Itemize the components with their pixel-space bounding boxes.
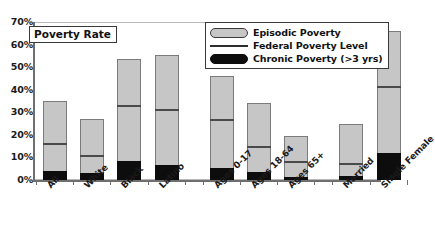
legend-item-chronic: Chronic Poverty (>3 yrs) bbox=[210, 52, 382, 65]
x-axis-tick-mark bbox=[36, 180, 37, 185]
x-axis-tick-mark bbox=[185, 180, 186, 185]
legend-item-label: Federal Poverty Level bbox=[253, 40, 368, 52]
legend-item-episodic: Episodic Poverty bbox=[210, 26, 382, 39]
y-axis-tick-mark bbox=[29, 90, 34, 91]
chart-legend: Episodic Poverty Federal Poverty Level C… bbox=[205, 22, 389, 69]
horizontal-line-swatch-icon bbox=[210, 41, 248, 51]
bar-group bbox=[155, 22, 179, 180]
y-axis-title: Poverty Rate bbox=[29, 26, 117, 43]
federal-poverty-level-marker bbox=[117, 105, 141, 107]
x-axis-tick-mark bbox=[370, 180, 371, 185]
y-axis-tick-mark bbox=[29, 135, 34, 136]
federal-poverty-level-marker bbox=[155, 109, 179, 111]
x-axis-tick-mark bbox=[314, 180, 315, 185]
federal-poverty-level-marker bbox=[80, 155, 104, 157]
y-axis-tick-mark bbox=[29, 157, 34, 158]
legend-item-label: Episodic Poverty bbox=[253, 27, 341, 39]
bar-group bbox=[80, 22, 104, 180]
y-axis-tick-mark bbox=[29, 22, 34, 23]
federal-poverty-level-marker bbox=[210, 119, 234, 121]
x-axis-tick-mark bbox=[203, 180, 204, 185]
y-axis-tick-mark bbox=[29, 112, 34, 113]
federal-poverty-level-marker bbox=[43, 143, 67, 145]
y-axis-tick-mark bbox=[29, 67, 34, 68]
x-axis-tick-mark bbox=[240, 180, 241, 185]
federal-poverty-level-marker bbox=[247, 146, 271, 148]
y-axis-tick-mark bbox=[29, 45, 34, 46]
x-axis-tick-mark bbox=[277, 180, 278, 185]
x-axis-tick-mark bbox=[73, 180, 74, 185]
bar-segment-episodic bbox=[155, 55, 179, 180]
x-axis-tick-mark bbox=[148, 180, 149, 185]
x-axis-tick-mark bbox=[110, 180, 111, 185]
x-axis-tick-mark bbox=[407, 180, 408, 185]
federal-poverty-level-marker bbox=[377, 86, 401, 88]
legend-item-federal-poverty-level: Federal Poverty Level bbox=[210, 39, 382, 52]
bar-segment-episodic bbox=[43, 101, 67, 180]
bar-group bbox=[117, 22, 141, 180]
y-axis-tick-mark bbox=[29, 180, 34, 181]
bar-group bbox=[43, 22, 67, 180]
legend-item-label: Chronic Poverty (>3 yrs) bbox=[253, 53, 382, 65]
rounded-gray-swatch-icon bbox=[210, 28, 248, 38]
x-axis-tick-mark bbox=[332, 180, 333, 185]
rounded-black-swatch-icon bbox=[210, 54, 248, 64]
